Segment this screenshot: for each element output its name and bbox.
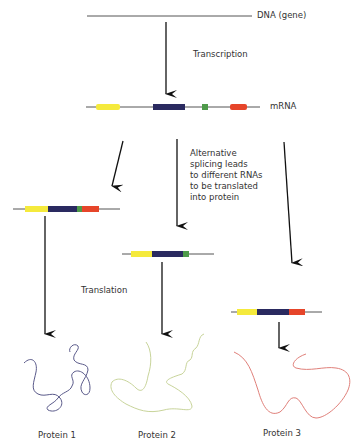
variant-2-mrna <box>122 251 214 257</box>
protein-3-label: Protein 3 <box>263 428 301 439</box>
translation-label: Translation <box>81 285 127 296</box>
mrna-label: mRNA <box>270 101 296 112</box>
protein-1-chain <box>24 345 90 411</box>
variant-3-mrna <box>231 309 322 315</box>
exon-green <box>202 104 208 110</box>
exon-yellow <box>96 104 120 110</box>
protein-2-label: Protein 2 <box>138 430 176 441</box>
exon-navy <box>153 104 185 110</box>
dna-label: DNA (gene) <box>257 10 306 21</box>
exon-red <box>230 104 247 110</box>
protein-1-label: Protein 1 <box>38 430 76 441</box>
diagram-canvas <box>0 0 362 448</box>
protein-3-chain <box>234 352 350 418</box>
transcription-label: Transcription <box>193 49 248 60</box>
variant-1-mrna <box>13 206 120 212</box>
alternative-splicing-label: Alternative splicing leads to different … <box>190 148 263 203</box>
arrow-to-variant-1 <box>112 141 123 186</box>
full-mrna <box>86 104 260 110</box>
arrow-to-variant-3 <box>284 142 292 263</box>
protein-2-chain <box>111 334 204 412</box>
